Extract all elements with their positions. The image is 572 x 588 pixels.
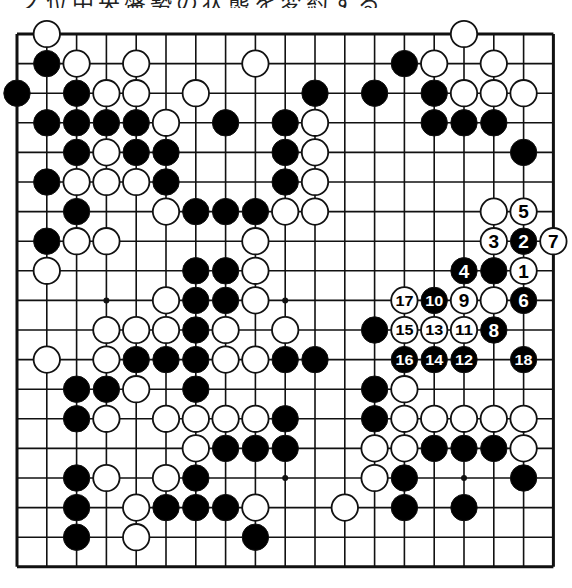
black-stone[interactable] bbox=[93, 110, 119, 136]
black-stone[interactable] bbox=[272, 139, 298, 165]
black-stone[interactable] bbox=[34, 228, 60, 254]
white-stone[interactable] bbox=[63, 228, 89, 254]
black-stone[interactable] bbox=[183, 287, 209, 313]
white-stone[interactable] bbox=[391, 376, 417, 402]
black-stone[interactable] bbox=[183, 198, 209, 224]
white-stone[interactable] bbox=[510, 406, 536, 432]
white-stone-move-15[interactable]: 15 bbox=[391, 317, 417, 343]
white-stone[interactable] bbox=[183, 80, 209, 106]
black-stone[interactable] bbox=[510, 139, 536, 165]
white-stone[interactable] bbox=[421, 406, 447, 432]
black-stone[interactable] bbox=[421, 110, 447, 136]
white-stone-move-7[interactable]: 7 bbox=[540, 228, 566, 254]
black-stone[interactable] bbox=[123, 110, 149, 136]
white-stone[interactable] bbox=[481, 287, 507, 313]
white-stone[interactable] bbox=[361, 435, 387, 461]
white-stone[interactable] bbox=[481, 50, 507, 76]
black-stone[interactable] bbox=[123, 346, 149, 372]
white-stone[interactable] bbox=[421, 50, 447, 76]
black-stone[interactable] bbox=[510, 465, 536, 491]
black-stone[interactable] bbox=[421, 80, 447, 106]
white-stone[interactable] bbox=[302, 169, 328, 195]
white-stone[interactable] bbox=[242, 346, 268, 372]
white-stone[interactable] bbox=[93, 80, 119, 106]
black-stone[interactable] bbox=[34, 50, 60, 76]
black-stone[interactable] bbox=[123, 139, 149, 165]
black-stone[interactable] bbox=[212, 435, 238, 461]
white-stone[interactable] bbox=[391, 435, 417, 461]
black-stone[interactable] bbox=[391, 50, 417, 76]
white-stone[interactable] bbox=[153, 198, 179, 224]
go-board[interactable]: 532741171096151311816141218 bbox=[0, 0, 572, 588]
black-stone[interactable] bbox=[63, 465, 89, 491]
black-stone-move-18[interactable]: 18 bbox=[510, 346, 536, 372]
white-stone[interactable] bbox=[242, 50, 268, 76]
white-stone[interactable] bbox=[302, 139, 328, 165]
black-stone[interactable] bbox=[153, 494, 179, 520]
black-stone[interactable] bbox=[481, 258, 507, 284]
white-stone[interactable] bbox=[93, 139, 119, 165]
white-stone[interactable] bbox=[242, 494, 268, 520]
white-stone[interactable] bbox=[93, 465, 119, 491]
black-stone[interactable] bbox=[63, 406, 89, 432]
white-stone-move-5[interactable]: 5 bbox=[510, 198, 536, 224]
black-stone-move-6[interactable]: 6 bbox=[510, 287, 536, 313]
black-stone[interactable] bbox=[361, 80, 387, 106]
black-stone-move-10[interactable]: 10 bbox=[421, 287, 447, 313]
white-stone[interactable] bbox=[242, 406, 268, 432]
white-stone-move-13[interactable]: 13 bbox=[421, 317, 447, 343]
white-stone[interactable] bbox=[481, 406, 507, 432]
white-stone[interactable] bbox=[212, 406, 238, 432]
black-stone[interactable] bbox=[153, 346, 179, 372]
black-stone[interactable] bbox=[183, 258, 209, 284]
white-stone[interactable] bbox=[451, 80, 477, 106]
white-stone[interactable] bbox=[391, 406, 417, 432]
white-stone[interactable] bbox=[510, 80, 536, 106]
black-stone[interactable] bbox=[34, 169, 60, 195]
white-stone[interactable] bbox=[123, 169, 149, 195]
white-stone[interactable] bbox=[451, 21, 477, 47]
white-stone[interactable] bbox=[212, 317, 238, 343]
white-stone[interactable] bbox=[302, 110, 328, 136]
white-stone[interactable] bbox=[451, 406, 477, 432]
black-stone[interactable] bbox=[212, 287, 238, 313]
white-stone[interactable] bbox=[123, 494, 149, 520]
black-stone-move-12[interactable]: 12 bbox=[451, 346, 477, 372]
black-stone[interactable] bbox=[272, 435, 298, 461]
black-stone[interactable] bbox=[212, 110, 238, 136]
black-stone[interactable] bbox=[63, 110, 89, 136]
black-stone[interactable] bbox=[63, 80, 89, 106]
white-stone[interactable] bbox=[302, 198, 328, 224]
white-stone[interactable] bbox=[481, 80, 507, 106]
black-stone[interactable] bbox=[361, 406, 387, 432]
black-stone[interactable] bbox=[63, 524, 89, 550]
black-stone[interactable] bbox=[63, 494, 89, 520]
black-stone[interactable] bbox=[153, 139, 179, 165]
white-stone[interactable] bbox=[242, 287, 268, 313]
black-stone[interactable] bbox=[361, 376, 387, 402]
white-stone[interactable] bbox=[332, 494, 358, 520]
black-stone[interactable] bbox=[272, 169, 298, 195]
black-stone[interactable] bbox=[183, 376, 209, 402]
black-stone[interactable] bbox=[451, 435, 477, 461]
white-stone-move-17[interactable]: 17 bbox=[391, 287, 417, 313]
black-stone[interactable] bbox=[242, 198, 268, 224]
white-stone[interactable] bbox=[153, 317, 179, 343]
white-stone-move-11[interactable]: 11 bbox=[451, 317, 477, 343]
black-stone-move-4[interactable]: 4 bbox=[451, 258, 477, 284]
black-stone[interactable] bbox=[361, 317, 387, 343]
black-stone[interactable] bbox=[302, 80, 328, 106]
black-stone[interactable] bbox=[212, 258, 238, 284]
black-stone[interactable] bbox=[63, 376, 89, 402]
black-stone[interactable] bbox=[272, 406, 298, 432]
black-stone[interactable] bbox=[272, 346, 298, 372]
white-stone[interactable] bbox=[123, 50, 149, 76]
white-stone[interactable] bbox=[361, 465, 387, 491]
white-stone[interactable] bbox=[123, 524, 149, 550]
white-stone[interactable] bbox=[272, 198, 298, 224]
white-stone[interactable] bbox=[93, 346, 119, 372]
black-stone[interactable] bbox=[183, 317, 209, 343]
black-stone[interactable] bbox=[93, 376, 119, 402]
black-stone[interactable] bbox=[481, 435, 507, 461]
black-stone-move-14[interactable]: 14 bbox=[421, 346, 447, 372]
